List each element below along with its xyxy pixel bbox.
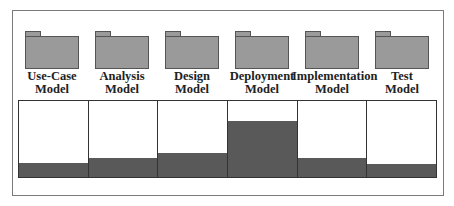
bar-column-deployment (228, 101, 298, 177)
bar-fill (367, 164, 436, 177)
bar-fill (298, 158, 367, 177)
label-line2: Model (82, 83, 162, 96)
bar-fill (158, 153, 227, 177)
bar-fill (89, 158, 158, 177)
folder-icon (165, 36, 219, 69)
bar-column-use-case (19, 101, 89, 177)
package-label-deployment: DeploymentModel (222, 70, 302, 96)
label-line2: Model (222, 83, 302, 96)
bar-fill (19, 163, 88, 177)
package-label-design: DesignModel (152, 70, 232, 96)
folder-icon (375, 36, 429, 69)
folder-icon (235, 36, 289, 69)
folder-icon (305, 36, 359, 69)
label-line2: Model (152, 83, 232, 96)
package-label-test: TestModel (362, 70, 442, 96)
bar-column-implementation (298, 101, 368, 177)
effort-bars (18, 100, 437, 178)
bar-column-analysis (89, 101, 159, 177)
package-label-implementation: ImplementationModel (292, 70, 372, 96)
bar-column-test (367, 101, 436, 177)
bar-fill (228, 121, 297, 177)
bar-column-design (158, 101, 228, 177)
package-label-use-case: Use-CaseModel (12, 70, 92, 96)
folder-icon (95, 36, 149, 69)
label-line2: Model (362, 83, 442, 96)
package-label-analysis: AnalysisModel (82, 70, 162, 96)
folder-icon (25, 36, 79, 69)
label-line2: Model (292, 83, 372, 96)
label-line2: Model (12, 83, 92, 96)
